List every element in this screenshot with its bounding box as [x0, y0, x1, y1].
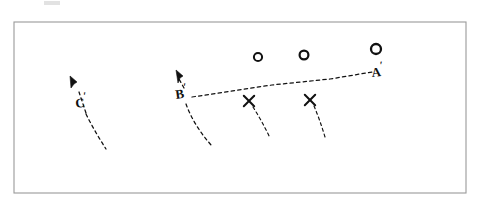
diagram-canvas: C′B′A′	[0, 0, 480, 208]
figure-container: C′B′A′	[0, 0, 480, 208]
scan-artifact	[44, 1, 60, 5]
canvas-background	[0, 0, 480, 208]
